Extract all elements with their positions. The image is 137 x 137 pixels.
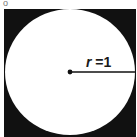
radius-value: =1 (91, 54, 111, 70)
center-point (68, 70, 73, 75)
corner-mark: o (3, 0, 8, 8)
circle-in-square-diagram: o r =1 (0, 0, 137, 137)
radius-label: r =1 (86, 54, 112, 70)
